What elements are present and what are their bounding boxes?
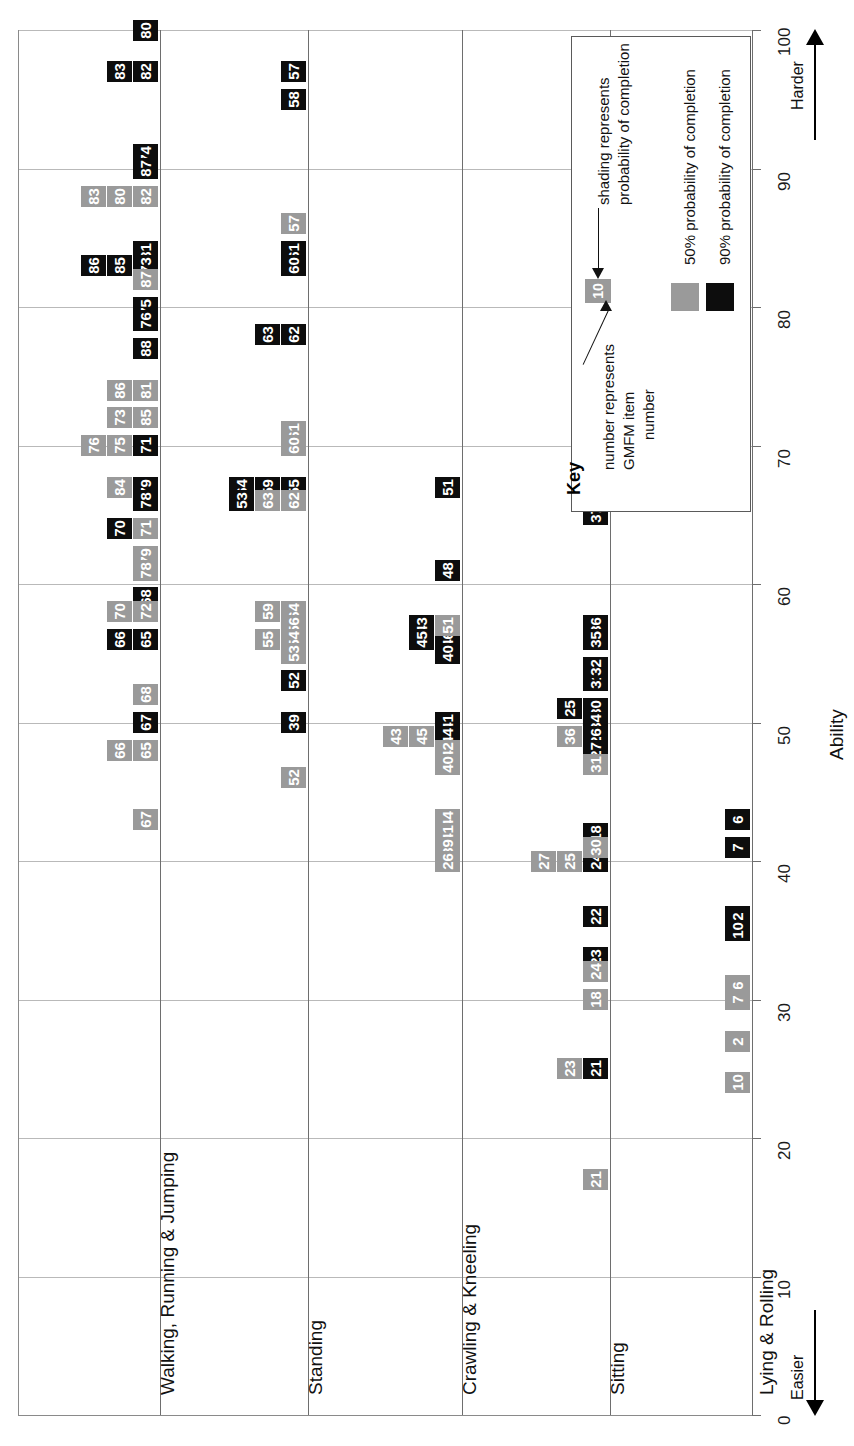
row-divider-1	[308, 30, 309, 1415]
tick-0	[752, 1415, 761, 1416]
gridline-40	[18, 861, 752, 862]
data-box-item-26: 26	[435, 851, 460, 872]
data-box-item-6: 6	[725, 809, 750, 830]
data-box-item-71: 71	[133, 518, 158, 539]
data-box-item-85: 85	[133, 407, 158, 428]
legend-number-arrowhead-icon	[600, 300, 612, 311]
data-box-label: 60	[286, 257, 301, 274]
data-box-label: 85	[138, 409, 153, 426]
axis-title: Ability	[826, 709, 848, 760]
data-box-label: 22	[588, 908, 603, 925]
data-box-item-65: 65	[133, 740, 158, 761]
data-box-item-66: 66	[107, 629, 132, 650]
data-box-label: 45	[414, 631, 429, 648]
data-box-label: 10	[730, 922, 745, 939]
data-box-item-57: 57	[281, 213, 306, 234]
data-box-label: 86	[112, 382, 127, 399]
data-box-label: 88	[138, 340, 153, 357]
data-box-label: 32	[588, 659, 603, 676]
gmfm-item-map-chart: 0102030405060708090100 Ability Easier Ha…	[0, 0, 854, 1446]
tick-label-20: 20	[775, 1141, 795, 1160]
data-box-label: 67	[138, 714, 153, 731]
data-box-item-78: 78	[133, 560, 158, 581]
data-box-item-73: 73	[107, 407, 132, 428]
legend-note-shading-line2: probability of completion	[615, 43, 632, 205]
data-box-label: 57	[286, 216, 301, 233]
data-box-item-23: 23	[557, 1058, 582, 1079]
gridline-10	[18, 1277, 752, 1278]
data-box-label: 40	[440, 756, 455, 773]
data-box-item-53: 53	[281, 643, 306, 664]
data-box-item-63: 63	[255, 490, 280, 511]
tick-50	[752, 723, 761, 724]
data-box-item-70: 70	[107, 601, 132, 622]
data-box-item-83: 83	[107, 61, 132, 82]
data-box-item-25: 25	[557, 851, 582, 872]
data-box-label: 51	[440, 617, 455, 634]
data-box-label: 83	[86, 188, 101, 205]
data-box-item-45: 45	[409, 629, 434, 650]
data-box-item-80: 80	[133, 20, 158, 41]
tick-60	[752, 584, 761, 585]
data-box-label: 59	[260, 603, 275, 620]
axis-baseline	[18, 1415, 752, 1416]
data-box-item-65: 65	[133, 629, 158, 650]
data-box-label: 52	[286, 673, 301, 690]
data-box-item-39: 39	[281, 712, 306, 733]
legend-title: Key	[564, 462, 585, 495]
tick-100	[752, 30, 761, 31]
data-box-item-51: 51	[435, 477, 460, 498]
data-box-item-60: 60	[281, 435, 306, 456]
data-box-label: 81	[138, 382, 153, 399]
legend-note-number-line3: number	[640, 389, 657, 440]
tick-label-60: 60	[775, 587, 795, 606]
data-box-label: 53	[286, 645, 301, 662]
data-box-item-57: 57	[281, 61, 306, 82]
tick-label-70: 70	[775, 449, 795, 468]
data-box-label: 25	[562, 853, 577, 870]
data-box-label: 83	[112, 63, 127, 80]
data-box-item-18: 18	[583, 989, 608, 1010]
data-box-item-87: 87	[133, 269, 158, 290]
data-box-label: 25	[562, 700, 577, 717]
data-box-item-76: 76	[81, 435, 106, 456]
data-box-label: 2	[730, 1037, 745, 1045]
data-box-label: 53	[234, 493, 249, 510]
data-box-label: 87	[138, 160, 153, 177]
data-box-item-70: 70	[107, 518, 132, 539]
data-box-label: 40	[440, 645, 455, 662]
data-box-label: 73	[112, 409, 127, 426]
data-box-label: 51	[440, 479, 455, 496]
data-box-label: 55	[260, 631, 275, 648]
data-box-label: 75	[112, 437, 127, 454]
data-box-item-58: 58	[281, 89, 306, 110]
data-box-label: 45	[414, 728, 429, 745]
data-box-item-83: 83	[81, 186, 106, 207]
data-box-label: 26	[440, 853, 455, 870]
data-box-label: 31	[588, 756, 603, 773]
data-box-item-7: 7	[725, 837, 750, 858]
tick-30	[752, 1000, 761, 1001]
data-box-label: 72	[138, 603, 153, 620]
data-box-item-36: 36	[557, 726, 582, 747]
data-box-label: 65	[138, 631, 153, 648]
data-box-label: 23	[562, 1060, 577, 1077]
row-label-standing: Standing	[305, 1320, 327, 1395]
legend-swatch-90	[706, 283, 734, 311]
data-box-label: 52	[286, 770, 301, 787]
tick-40	[752, 861, 761, 862]
data-box-item-86: 86	[81, 255, 106, 276]
data-box-label: 6	[730, 815, 745, 823]
data-box-item-63: 63	[255, 324, 280, 345]
legend-sample-item-number: 10	[590, 283, 606, 299]
data-box-item-88: 88	[133, 338, 158, 359]
data-box-item-81: 81	[133, 380, 158, 401]
legend-label-90: 90% probability of completion	[716, 69, 733, 265]
axis-easier-label: Easier	[789, 1355, 807, 1400]
data-box-item-67: 67	[133, 712, 158, 733]
legend-swatch-50	[671, 283, 699, 311]
data-box-item-21: 21	[583, 1169, 608, 1190]
data-box-item-60: 60	[281, 255, 306, 276]
tick-label-30: 30	[775, 1003, 795, 1022]
data-box-item-82: 82	[133, 61, 158, 82]
